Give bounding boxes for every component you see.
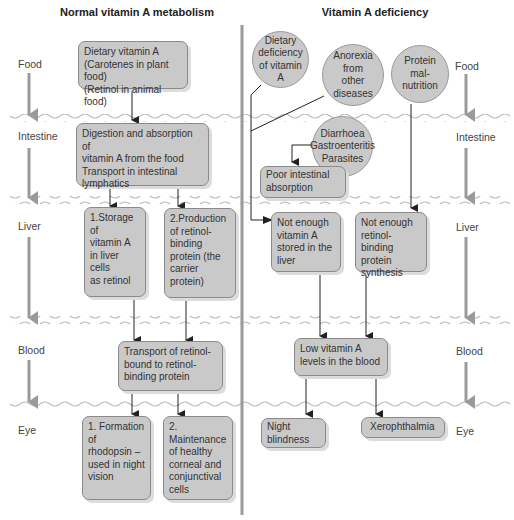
rhodopsin-formation-box: 1. Formation of rhodopsin – used in nigh… <box>82 416 151 500</box>
corneal-maintenance-box: 2. Maintenance of healthy corneal and co… <box>163 416 233 500</box>
not-enough-vitamin-a-box: Not enough vitamin A stored in the liver <box>271 212 341 272</box>
stage-label-blood-right: Blood <box>456 345 483 357</box>
stage-label-liver: Liver <box>18 220 41 232</box>
stage-label-eye: Eye <box>18 424 36 436</box>
retinol-transport-box: Transport of retinol- bound to retinol- … <box>118 341 223 391</box>
night-blindness-box: Night blindness <box>261 418 326 448</box>
dietary-vitamin-a-box: Dietary vitamin A (Carotenes in plant fo… <box>78 41 188 89</box>
low-vitamin-a-blood-box: Low vitamin A levels in the blood <box>294 338 388 376</box>
xerophthalmia-box: Xerophthalmia <box>361 417 445 438</box>
digestion-absorption-box: Digestion and absorption of vitamin A fr… <box>76 123 209 186</box>
liver-storage-box: 1.Storage of vitamin A in liver cells as… <box>84 207 146 297</box>
poor-absorption-box: Poor intestinal absorption <box>260 166 346 198</box>
not-enough-rbp-box: Not enough retinol-binding protein synth… <box>355 212 427 272</box>
right-panel-title: Vitamin A deficiency <box>300 6 450 18</box>
stage-label-food: Food <box>18 58 42 70</box>
anorexia-circle: Anorexia from other diseases <box>322 44 384 106</box>
stage-label-liver-right: Liver <box>456 221 479 233</box>
stage-label-blood: Blood <box>18 344 45 356</box>
left-panel-title: Normal vitamin A metabolism <box>52 6 222 18</box>
stage-label-intestine: Intestine <box>18 130 58 142</box>
rbp-production-box: 2.Production of retinol- binding protein… <box>164 208 236 298</box>
protein-malnutrition-circle: Protein mal- nutrition <box>391 45 449 103</box>
stage-label-intestine-right: Intestine <box>456 131 496 143</box>
stage-label-food-right: Food <box>455 60 479 72</box>
stage-label-eye-right: Eye <box>456 425 474 437</box>
dietary-deficiency-circle: Dietary deficiency of vitamin A <box>252 31 309 88</box>
